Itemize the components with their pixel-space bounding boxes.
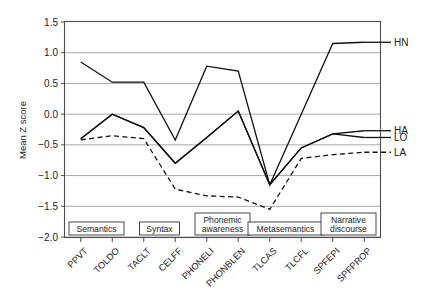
y-tick-label: 0.5 bbox=[44, 78, 58, 89]
category-box-label: Narrative bbox=[331, 215, 366, 225]
y-axis-title-text: Mean Z score bbox=[17, 101, 28, 159]
y-tick-label: −0.5 bbox=[38, 139, 58, 150]
category-box-label: Phonemic bbox=[203, 215, 242, 225]
x-tick-label-spfepi: SPFEPI bbox=[312, 246, 342, 276]
chart-legend: HNHALOLA bbox=[364, 37, 408, 158]
y-tick-label: −2.0 bbox=[38, 232, 58, 243]
x-tick-label-taclt: TACLT bbox=[126, 246, 153, 273]
category-group-boxes: SemanticsSyntaxPhonemicawarenessMetasema… bbox=[69, 213, 376, 235]
category-box-label: awareness bbox=[202, 224, 244, 234]
series-line-ha bbox=[81, 111, 365, 185]
category-box-label: Syntax bbox=[146, 224, 173, 234]
x-tick-label-tlcas: TLCAS bbox=[251, 246, 279, 274]
series-line-la bbox=[81, 136, 365, 210]
x-axis-labels: PPVTTOLDOTACLTCELFFPHONELIPHONBLENTLCAST… bbox=[66, 246, 374, 289]
category-box-label: Semantics bbox=[76, 224, 116, 234]
series-line-lo bbox=[81, 111, 365, 185]
grid-lines bbox=[65, 53, 380, 237]
data-series-layer bbox=[81, 42, 365, 209]
x-tick-label-tlcfl: TLCFL bbox=[283, 246, 310, 273]
y-axis-title: Mean Z score bbox=[17, 101, 28, 159]
x-tick-label-toldo: TOLDO bbox=[92, 246, 121, 275]
legend-label-la: LA bbox=[394, 147, 407, 158]
x-tick-label-ppvt: PPVT bbox=[66, 246, 90, 270]
x-tick-label-spfprop: SPFPROP bbox=[335, 246, 373, 284]
y-tick-label: 1.5 bbox=[44, 17, 58, 28]
y-tick-label: 0.0 bbox=[44, 109, 58, 120]
x-tick-label-celff: CELFF bbox=[157, 246, 185, 274]
y-axis-ticks: 1.51.00.50.0−0.5−1.0−1.5−2.0 bbox=[38, 17, 65, 243]
category-box-label: Metasemantics bbox=[257, 224, 315, 234]
series-line-hn bbox=[81, 42, 365, 185]
line-chart: Mean Z score 1.51.00.50.0−0.5−1.0−1.5−2.… bbox=[0, 0, 434, 305]
y-tick-label: −1.0 bbox=[38, 170, 58, 181]
legend-label-hn: HN bbox=[394, 37, 408, 48]
plot-frame bbox=[65, 22, 381, 238]
legend-label-lo: LO bbox=[394, 132, 408, 143]
y-tick-label: −1.5 bbox=[38, 201, 58, 212]
chart-container: Mean Z score 1.51.00.50.0−0.5−1.0−1.5−2.… bbox=[0, 0, 434, 305]
category-box-label: discourse bbox=[330, 224, 367, 234]
y-tick-label: 1.0 bbox=[44, 47, 58, 58]
